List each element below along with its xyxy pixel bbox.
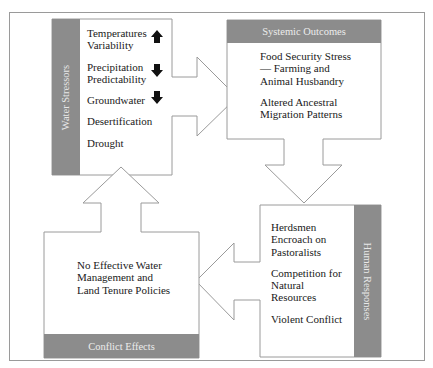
list-item: No Effective Water Management and Land T… bbox=[77, 259, 170, 296]
list-item: Food Security Stress — Farming and Anima… bbox=[260, 50, 351, 87]
list-item: Temperatures Variability bbox=[87, 27, 152, 52]
systemic-outcomes-title: Systemic Outcomes bbox=[227, 20, 381, 43]
list-item: Precipitation Predictability bbox=[87, 61, 152, 86]
conflict-effects-list: No Effective Water Management and Land T… bbox=[77, 259, 170, 296]
systemic-outcomes-list: Food Security Stress — Farming and Anima… bbox=[260, 50, 351, 120]
conflict-effects-title: Conflict Effects bbox=[44, 334, 199, 358]
list-item: Drought bbox=[87, 137, 152, 149]
list-item: Groundwater bbox=[87, 94, 152, 106]
list-item: Competition for Natural Resources bbox=[271, 267, 342, 304]
list-item: Violent Conflict bbox=[271, 313, 342, 325]
list-item: Herdsmen Encroach on Pastoralists bbox=[271, 221, 342, 258]
list-item: Altered Ancestral Migration Patterns bbox=[260, 96, 351, 121]
list-item: Desertification bbox=[87, 115, 152, 127]
water-stressors-title: Water Stressors bbox=[52, 19, 80, 175]
human-responses-list: Herdsmen Encroach on Pastoralists Compet… bbox=[271, 221, 342, 325]
human-responses-title: Human Responses bbox=[354, 205, 381, 357]
water-stressors-list: Temperatures Variability Precipitation P… bbox=[87, 27, 152, 149]
